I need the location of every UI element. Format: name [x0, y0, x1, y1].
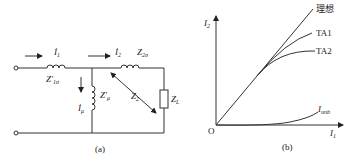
legend-ta1: TA1 — [316, 28, 332, 38]
curve-iunb — [216, 112, 318, 125]
inductor-zmu — [92, 86, 95, 110]
x-axis-label: I1 — [329, 128, 336, 139]
characteristic-chart — [216, 9, 343, 125]
label-i2: İ2 — [114, 47, 121, 58]
load-resistor-zl — [160, 90, 168, 108]
equivalent-circuit — [14, 56, 168, 135]
chart-labels: I2 I1 O 理想 TA1 TA2 Iunb (b) — [203, 3, 336, 152]
origin-label: O — [208, 126, 215, 136]
diagram-canvas: İ1 Z'1σ İ2 Z2σ İμ Z'μ Z2 ZL (a) I2 I1 O … — [0, 0, 348, 162]
input-terminal-bottom — [14, 131, 18, 135]
input-terminal-top — [14, 66, 18, 70]
curve-ta2 — [257, 51, 315, 76]
label-z2sigma: Z2σ — [137, 47, 149, 58]
legend-iunb: Iunb — [317, 104, 330, 115]
legend-ta2: TA2 — [316, 46, 332, 56]
label-zl: ZL — [171, 94, 180, 105]
y-axis-label: I2 — [203, 18, 210, 29]
inductor-z2sigma — [121, 65, 139, 68]
label-zmu: Z'μ — [100, 90, 110, 101]
caption-a: (a) — [95, 144, 105, 154]
label-i1: İ1 — [53, 47, 60, 58]
label-imu: İμ — [77, 103, 84, 114]
inductor-z1sigma — [47, 65, 65, 68]
caption-b: (b) — [282, 142, 293, 152]
curve-ta1 — [257, 33, 312, 76]
legend-ideal: 理想 — [316, 3, 334, 14]
label-z1sigma: Z'1σ — [46, 74, 60, 85]
label-z2: Z2 — [131, 91, 139, 102]
